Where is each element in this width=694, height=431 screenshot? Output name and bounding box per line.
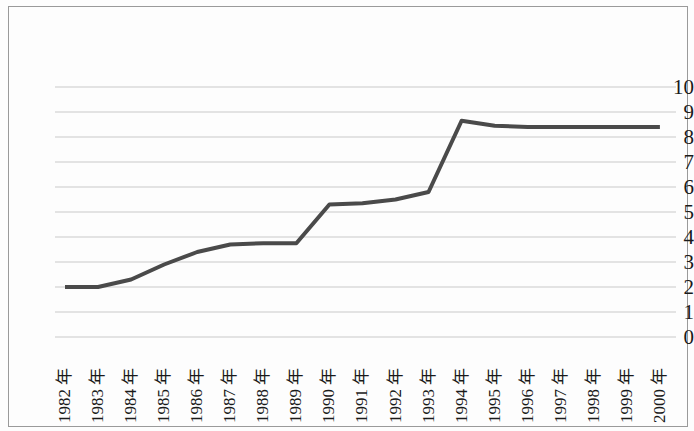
x-tick-label: 1990 年	[320, 368, 337, 423]
x-tick-label: 1991 年	[353, 368, 370, 423]
x-tick-label: 1986 年	[188, 368, 205, 423]
chart-figure: 012345678910 1982 年1983 年1984 年1985 年198…	[0, 0, 694, 431]
x-tick-label: 1985 年	[155, 368, 172, 423]
x-tick-label: 1989 年	[287, 368, 304, 423]
x-tick-label: 1997 年	[552, 368, 569, 423]
x-tick-label: 1999 年	[618, 368, 635, 423]
x-tick-label: 1995 年	[486, 368, 503, 423]
x-tick-label: 1994 年	[453, 368, 470, 423]
x-axis-tick-labels: 1982 年1983 年1984 年1985 年1986 年1987 年1988…	[0, 0, 694, 431]
x-tick-label: 1998 年	[585, 368, 602, 423]
x-tick-label: 1982 年	[56, 368, 73, 423]
x-tick-label: 2000 年	[651, 368, 668, 423]
x-tick-label: 1993 年	[420, 368, 437, 423]
x-tick-label: 1984 年	[122, 368, 139, 423]
x-tick-label: 1996 年	[519, 368, 536, 423]
x-tick-label: 1987 年	[221, 368, 238, 423]
x-tick-label: 1992 年	[387, 368, 404, 423]
x-tick-label: 1983 年	[89, 368, 106, 423]
x-tick-label: 1988 年	[254, 368, 271, 423]
